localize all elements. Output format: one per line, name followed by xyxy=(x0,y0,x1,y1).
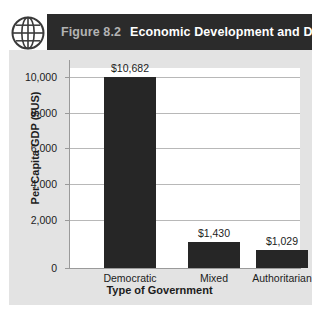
bar-authoritarian[interactable]: $1,029 xyxy=(256,250,308,268)
ytick-label-0: 0 xyxy=(51,262,57,274)
ytick-label-4000: 4,000 xyxy=(31,178,57,190)
x-axis-line xyxy=(69,268,301,269)
globe-icon xyxy=(9,14,47,52)
chart-panel: Per Capita GDP ($US) 10,000 8,000 6,000 … xyxy=(9,50,312,305)
plot-area: 10,000 8,000 6,000 4,000 2,000 0 $10,682 xyxy=(70,68,300,268)
figure-title: Economic Development and Democracy xyxy=(130,25,319,39)
category-label-democratic: Democratic xyxy=(80,272,180,284)
category-label-mixed: Mixed xyxy=(180,272,248,284)
figure-number: Figure 8.2 xyxy=(61,25,121,39)
ytick-label-10000: 10,000 xyxy=(25,71,57,83)
x-axis-title: Type of Government xyxy=(0,284,319,296)
y-axis-line xyxy=(69,60,70,268)
figure-container: Figure 8.2 Economic Development and Demo… xyxy=(0,0,319,324)
ytick-label-2000: 2,000 xyxy=(31,214,57,226)
bar-democratic[interactable]: $10,682 xyxy=(104,77,156,268)
bar-value-authoritarian: $1,029 xyxy=(266,235,298,247)
figure-title-bar: Figure 8.2 Economic Development and Demo… xyxy=(47,14,312,50)
category-label-authoritarian: Authoritarian xyxy=(242,272,319,284)
bar-value-democratic: $10,682 xyxy=(111,62,149,74)
figure-header: Figure 8.2 Economic Development and Demo… xyxy=(0,12,319,54)
bar-mixed[interactable]: $1,430 xyxy=(188,242,240,268)
bar-value-mixed: $1,430 xyxy=(198,227,230,239)
ytick-label-6000: 6,000 xyxy=(31,142,57,154)
ytick-label-8000: 8,000 xyxy=(31,107,57,119)
